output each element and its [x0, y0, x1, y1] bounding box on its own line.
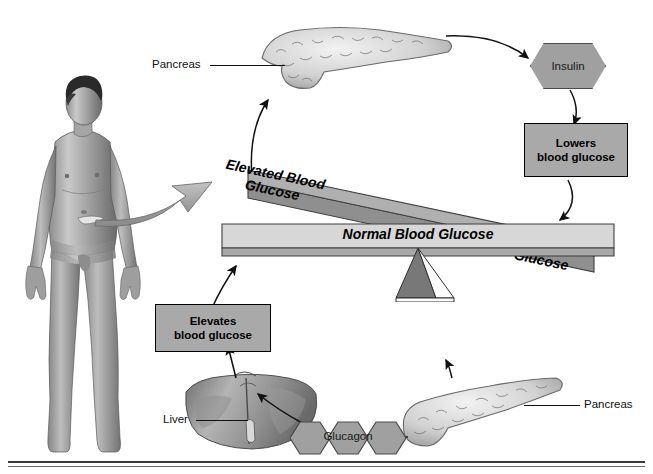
pancreas-bottom-leader [524, 405, 580, 406]
bottom-rule-upper [8, 461, 645, 463]
arrow-insulin-to-lowers [570, 90, 576, 124]
beam-normal-label: Normal Blood Glucose [218, 226, 618, 242]
glucagon-hexagon-chain[interactable]: Glucagon [290, 420, 406, 456]
elevates-blood-glucose-box[interactable]: Elevates blood glucose [155, 304, 271, 352]
pancreas-top-illustration [262, 28, 452, 89]
liver-leader [196, 420, 248, 421]
glucagon-label: Glucagon [290, 430, 406, 442]
arrow-beam-to-pancreas-bottom [446, 360, 452, 378]
bottom-rule-lower [8, 466, 645, 467]
insulin-hexagon[interactable]: Insulin [530, 43, 606, 89]
diagram-canvas: Elevated Blood Glucose Low Blood Glucose… [0, 0, 653, 474]
arrow-pancreas-to-insulin [446, 36, 528, 58]
pancreas-top-label: Pancreas [152, 58, 201, 70]
pancreas-bottom-illustration [403, 378, 562, 446]
pancreas-top-leader [210, 65, 285, 66]
liver-label: Liver [163, 413, 188, 425]
arrow-elevates-to-beam [212, 266, 236, 308]
fulcrum-triangle [378, 248, 494, 302]
pancreas-bottom-label: Pancreas [584, 398, 633, 410]
lowers-blood-glucose-box[interactable]: Lowers blood glucose [524, 123, 628, 177]
